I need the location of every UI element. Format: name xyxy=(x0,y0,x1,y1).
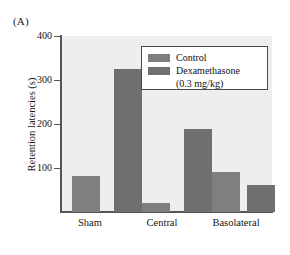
bar-basolateral-dexamethasone xyxy=(247,185,275,212)
legend-entry-dexamethasone: Dexamethasone xyxy=(148,65,240,77)
legend-label-dexamethasone: Dexamethasone xyxy=(176,66,240,76)
bar-sham-control xyxy=(72,176,100,212)
panel-letter-label: (A) xyxy=(13,15,29,27)
y-tick-mark-300 xyxy=(54,80,61,81)
bar-sham-dexamethasone xyxy=(114,69,142,212)
y-tick-label-300: 300 xyxy=(12,74,52,85)
y-tick-label-400: 400 xyxy=(12,30,52,41)
y-tick-label-100: 100 xyxy=(12,162,52,173)
x-category-label-basolateral: Basolateral xyxy=(200,217,272,228)
bar-central-dexamethasone xyxy=(184,129,212,212)
legend-label-control: Control xyxy=(176,53,207,63)
legend-entry-control: Control xyxy=(148,52,207,64)
x-category-label-sham: Sham xyxy=(60,217,120,228)
bar-central-control-visible xyxy=(142,203,170,212)
legend-swatch-dexamethasone-icon xyxy=(148,67,170,75)
y-tick-mark-400 xyxy=(54,36,61,37)
y-tick-label-200: 200 xyxy=(12,118,52,129)
chart-legend: Control Dexamethasone (0.3 mg/kg) xyxy=(141,46,268,90)
legend-label-dose: (0.3 mg/kg) xyxy=(176,78,223,89)
x-category-label-central: Central xyxy=(132,217,192,228)
legend-swatch-control-icon xyxy=(148,54,170,62)
y-tick-mark-100 xyxy=(54,168,61,169)
figure-panel-a: (A) Retention latencies (s) 400 300 200 … xyxy=(0,0,290,255)
bar-basolateral-control xyxy=(212,172,240,212)
y-tick-mark-200 xyxy=(54,124,61,125)
